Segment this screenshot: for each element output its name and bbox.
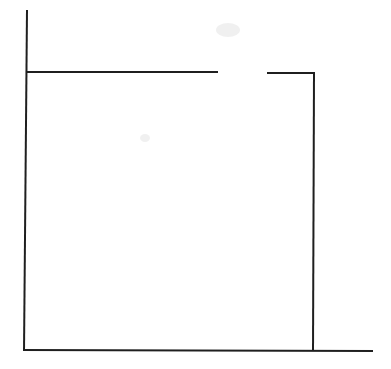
smudge-mark bbox=[216, 23, 240, 37]
right-vertical-line bbox=[313, 73, 314, 351]
left-vertical-line bbox=[24, 10, 27, 351]
scan-artifacts bbox=[140, 23, 240, 142]
diagram-lines bbox=[23, 10, 373, 351]
smudge-mark bbox=[140, 134, 150, 142]
bottom-horizontal-line bbox=[23, 350, 373, 351]
diagram-canvas bbox=[0, 0, 391, 369]
